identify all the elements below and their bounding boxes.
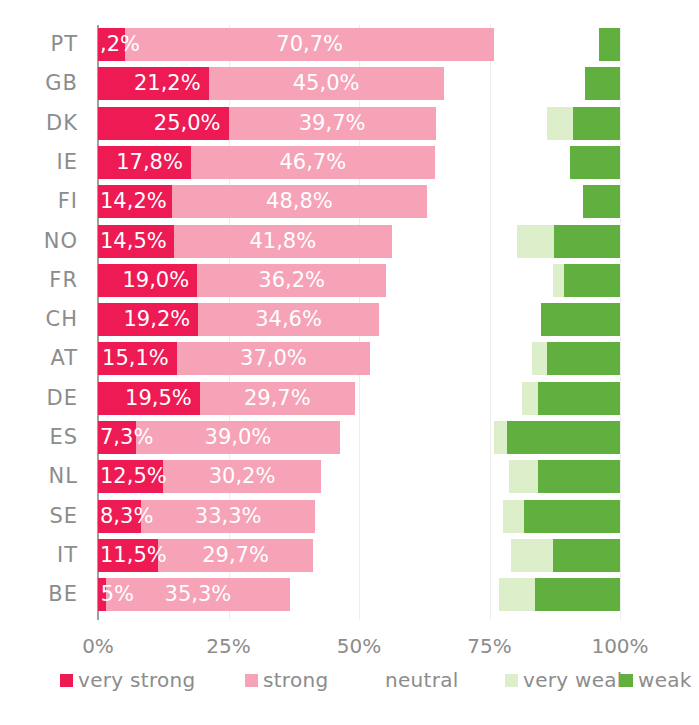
bar-segment-strong xyxy=(163,460,321,493)
bar-segment-very-strong xyxy=(98,185,172,218)
x-tick-0: 0% xyxy=(82,634,114,658)
legend-item-neutral[interactable]: neutral xyxy=(385,666,459,694)
bar-segment-very-strong xyxy=(98,225,174,258)
legend-swatch-very-strong xyxy=(60,674,73,687)
legend-label-strong: strong xyxy=(263,668,328,692)
bar-segment-very-weak xyxy=(509,460,538,493)
bar-segment-weak xyxy=(599,28,620,61)
bar-segment-strong xyxy=(177,342,370,375)
bar-segment-weak xyxy=(573,107,620,140)
chart-row: DE19,5%29,7% xyxy=(0,379,699,418)
bar-segment-strong xyxy=(198,303,379,336)
chart-row: IT11,5%29,7% xyxy=(0,536,699,575)
legend-item-very-weak[interactable]: very weak xyxy=(505,666,629,694)
bar-segment-very-weak xyxy=(494,421,507,454)
bar-segment-very-weak xyxy=(553,264,563,297)
category-label-fi: FI xyxy=(0,182,78,221)
bar-segment-very-weak xyxy=(517,225,554,258)
bar-segment-strong xyxy=(229,107,436,140)
chart-row: AT15,1%37,0% xyxy=(0,339,699,378)
legend-item-weak[interactable]: weak xyxy=(620,666,692,694)
bar-segment-weak xyxy=(538,460,620,493)
x-tick-100: 100% xyxy=(591,634,648,658)
bar-segment-weak xyxy=(538,382,620,415)
category-label-at: AT xyxy=(0,339,78,378)
bar-segment-very-strong xyxy=(98,67,209,100)
bar-segment-strong xyxy=(125,28,494,61)
legend-label-neutral: neutral xyxy=(385,668,459,692)
legend-swatch-weak xyxy=(620,674,633,687)
diverging-stacked-bar-chart: PT,2%70,7%GB21,2%45,0%DK25,0%39,7%IE17,8… xyxy=(0,0,699,725)
legend-label-very-weak: very weak xyxy=(523,668,629,692)
category-label-ie: IE xyxy=(0,143,78,182)
x-tick-75: 75% xyxy=(467,634,511,658)
category-label-be: BE xyxy=(0,575,78,614)
bar-segment-strong xyxy=(158,539,313,572)
category-label-it: IT xyxy=(0,536,78,575)
bar-segment-weak xyxy=(554,225,620,258)
category-label-se: SE xyxy=(0,497,78,536)
bar-segment-very-weak xyxy=(499,578,536,611)
bar-segment-weak xyxy=(564,264,620,297)
chart-row: NO14,5%41,8% xyxy=(0,222,699,261)
chart-row: SE8,3%33,3% xyxy=(0,497,699,536)
bar-segment-very-strong xyxy=(98,578,106,611)
bar-segment-weak xyxy=(541,303,620,336)
bar-segment-very-strong xyxy=(98,342,177,375)
category-label-no: NO xyxy=(0,222,78,261)
bar-segment-strong xyxy=(106,578,290,611)
bar-segment-strong xyxy=(174,225,392,258)
legend-label-weak: weak xyxy=(638,668,692,692)
bar-segment-strong xyxy=(200,382,355,415)
chart-row: BE5%35,3% xyxy=(0,575,699,614)
chart-row: PT,2%70,7% xyxy=(0,25,699,64)
bar-segment-very-weak xyxy=(511,539,553,572)
x-axis-tick-labels: 0%25%50%75%100% xyxy=(0,634,699,664)
chart-row: FR19,0%36,2% xyxy=(0,261,699,300)
chart-row: GB21,2%45,0% xyxy=(0,64,699,103)
bar-segment-strong xyxy=(172,185,427,218)
bar-segment-strong xyxy=(141,500,315,533)
bar-segment-weak xyxy=(507,421,620,454)
bar-segment-weak xyxy=(547,342,620,375)
legend-swatch-strong xyxy=(245,674,258,687)
bar-segment-very-strong xyxy=(98,107,229,140)
chart-row: ES7,3%39,0% xyxy=(0,418,699,457)
bar-segment-very-strong xyxy=(98,303,198,336)
x-tick-50: 50% xyxy=(337,634,381,658)
category-label-fr: FR xyxy=(0,261,78,300)
bar-segment-strong xyxy=(191,146,435,179)
bar-segment-weak xyxy=(553,539,620,572)
bar-segment-very-strong xyxy=(98,28,125,61)
category-label-es: ES xyxy=(0,418,78,457)
category-label-gb: GB xyxy=(0,64,78,103)
bar-segment-very-strong xyxy=(98,421,136,454)
bar-segment-very-weak xyxy=(522,382,538,415)
x-tick-25: 25% xyxy=(206,634,250,658)
chart-legend: very strongstrongneutralvery weakweak xyxy=(0,666,699,700)
chart-row: FI14,2%48,8% xyxy=(0,182,699,221)
plot-area: PT,2%70,7%GB21,2%45,0%DK25,0%39,7%IE17,8… xyxy=(0,25,699,620)
chart-row: CH19,2%34,6% xyxy=(0,300,699,339)
bar-segment-weak xyxy=(524,500,620,533)
legend-item-very-strong[interactable]: very strong xyxy=(60,666,196,694)
bar-segment-weak xyxy=(535,578,620,611)
chart-row: IE17,8%46,7% xyxy=(0,143,699,182)
bar-segment-very-weak xyxy=(532,342,548,375)
legend-swatch-very-weak xyxy=(505,674,518,687)
bar-segment-very-strong xyxy=(98,146,191,179)
category-label-ch: CH xyxy=(0,300,78,339)
bar-segment-weak xyxy=(583,185,620,218)
category-label-pt: PT xyxy=(0,25,78,64)
bar-segment-strong xyxy=(136,421,340,454)
bar-segment-weak xyxy=(585,67,620,100)
bar-segment-very-strong xyxy=(98,460,163,493)
bar-segment-very-strong xyxy=(98,500,141,533)
chart-row: NL12,5%30,2% xyxy=(0,457,699,496)
legend-item-strong[interactable]: strong xyxy=(245,666,328,694)
legend-label-very-strong: very strong xyxy=(78,668,196,692)
category-label-de: DE xyxy=(0,379,78,418)
category-label-nl: NL xyxy=(0,457,78,496)
category-label-dk: DK xyxy=(0,104,78,143)
bar-segment-strong xyxy=(197,264,386,297)
